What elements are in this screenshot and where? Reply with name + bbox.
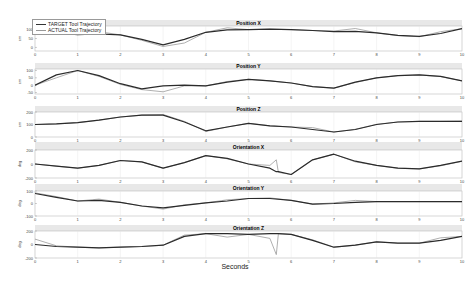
actual-line-swatch [36,30,46,31]
svg-text:9: 9 [418,52,421,57]
svg-text:-50: -50 [27,90,34,95]
subplot-title: Orientation Y [233,185,265,191]
svg-text:8: 8 [375,95,378,100]
subplot-title: Orientation X [233,144,265,150]
svg-text:8: 8 [375,52,378,57]
svg-text:0: 0 [31,45,34,50]
x-axis-label: Seconds [0,263,470,270]
svg-text:50: 50 [29,75,34,80]
subplot-position-y: Position Y012345678910-50050100cm [17,63,465,101]
svg-text:4: 4 [205,179,208,184]
svg-text:-100: -100 [25,214,34,219]
svg-text:100: 100 [26,68,33,73]
svg-text:0: 0 [31,201,34,206]
svg-text:4: 4 [205,52,208,57]
subplot-title: Position Z [236,106,260,112]
svg-text:6: 6 [290,95,293,100]
svg-text:2: 2 [119,52,122,57]
subplot-orientation-z: Orientation Z012345678910-2000200deg [17,225,465,265]
svg-text:5: 5 [247,217,250,222]
legend-entry-actual: ACTUAL Tool Trajectory [36,27,102,33]
subplot-orientation-x: Orientation X012345678910-2000200deg [17,142,465,184]
legend: TARGET Tool Trajectory ACTUAL Tool Traje… [32,19,106,35]
subplot-title: Orientation Z [233,225,264,231]
trajectory-figure: Position X012345678910050100cmPosition Y… [0,0,470,288]
svg-text:3: 3 [162,179,165,184]
svg-text:10: 10 [460,95,465,100]
svg-text:2: 2 [119,179,122,184]
svg-text:7: 7 [333,217,336,222]
svg-text:9: 9 [418,95,421,100]
svg-text:0: 0 [34,217,37,222]
svg-text:0: 0 [31,162,34,167]
svg-text:6: 6 [290,52,293,57]
svg-text:0: 0 [34,179,37,184]
svg-text:cm: cm [17,78,22,84]
svg-text:4: 4 [205,217,208,222]
svg-text:0: 0 [31,242,34,247]
svg-text:0: 0 [31,83,34,88]
target-line-swatch [36,24,46,25]
svg-text:3: 3 [162,217,165,222]
svg-text:100: 100 [26,122,33,127]
subplot-title: Position Y [236,63,261,69]
svg-text:1: 1 [77,217,80,222]
subplot-title: Position X [236,20,261,26]
svg-text:200: 200 [26,229,33,234]
svg-text:deg: deg [17,241,22,248]
svg-text:8: 8 [375,179,378,184]
svg-text:7: 7 [333,95,336,100]
svg-text:cm: cm [17,121,22,127]
svg-text:deg: deg [17,161,22,168]
svg-text:-200: -200 [25,256,34,261]
svg-text:6: 6 [290,217,293,222]
svg-text:4: 4 [205,95,208,100]
svg-text:6: 6 [290,179,293,184]
svg-text:2: 2 [119,217,122,222]
svg-text:5: 5 [247,179,250,184]
svg-text:7: 7 [333,52,336,57]
svg-text:3: 3 [162,52,165,57]
svg-text:3: 3 [162,95,165,100]
svg-text:1: 1 [77,179,80,184]
svg-text:100: 100 [26,189,33,194]
svg-text:5: 5 [247,95,250,100]
svg-text:10: 10 [460,179,465,184]
svg-text:200: 200 [26,148,33,153]
svg-text:5: 5 [247,52,250,57]
svg-text:cm: cm [17,35,22,41]
svg-text:0: 0 [34,52,37,57]
legend-label-actual: ACTUAL Tool Trajectory [48,27,101,33]
svg-text:9: 9 [418,217,421,222]
svg-text:-200: -200 [25,176,34,181]
svg-text:7: 7 [333,179,336,184]
svg-text:2: 2 [119,95,122,100]
subplot-position-z: Position Z0123456789100100200cm [17,106,465,144]
svg-text:9: 9 [418,179,421,184]
svg-text:deg: deg [17,200,22,207]
svg-text:50: 50 [29,36,34,41]
subplot-orientation-y: Orientation Y012345678910-1000100deg [17,184,465,222]
svg-text:8: 8 [375,217,378,222]
svg-text:0: 0 [34,95,37,100]
svg-text:10: 10 [460,217,465,222]
svg-text:1: 1 [77,52,80,57]
svg-text:10: 10 [460,52,465,57]
svg-text:1: 1 [77,95,80,100]
svg-text:200: 200 [26,110,33,115]
